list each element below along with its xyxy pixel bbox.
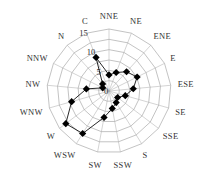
direction-label-ssw: SSW: [114, 160, 132, 170]
direction-label-sw: SW: [89, 160, 102, 170]
radial-tick-label: 15: [79, 28, 88, 38]
diamond-marker: [113, 69, 120, 76]
direction-label-wnw: WNW: [20, 107, 43, 117]
grid-spoke: [87, 33, 109, 91]
direction-label-e: E: [170, 53, 176, 63]
direction-label-w: W: [47, 131, 55, 141]
direction-label-se: SE: [175, 107, 186, 117]
direction-label-nnw: NNW: [27, 53, 48, 63]
direction-label-ene: ENE: [154, 31, 171, 41]
grid-spoke: [109, 45, 151, 91]
direction-label-sse: SSE: [163, 131, 179, 141]
direction-label-nw: NW: [26, 79, 41, 89]
direction-label-ne: NE: [130, 16, 142, 26]
wind-rose-chart: 051015 NNENEENEEESESESSESSSWSWWSWWWNWNWN…: [0, 0, 204, 182]
direction-label-nne: NNE: [100, 11, 118, 21]
diamond-marker: [114, 94, 121, 101]
direction-label-wsw: WSW: [54, 150, 76, 160]
direction-label-n: N: [58, 31, 64, 41]
direction-label-ese: ESE: [178, 79, 194, 89]
diamond-marker: [62, 120, 69, 127]
diamond-marker: [105, 71, 112, 78]
direction-label-c: C: [82, 16, 88, 26]
direction-label-s: S: [142, 150, 147, 160]
grid-spoke: [109, 33, 131, 91]
